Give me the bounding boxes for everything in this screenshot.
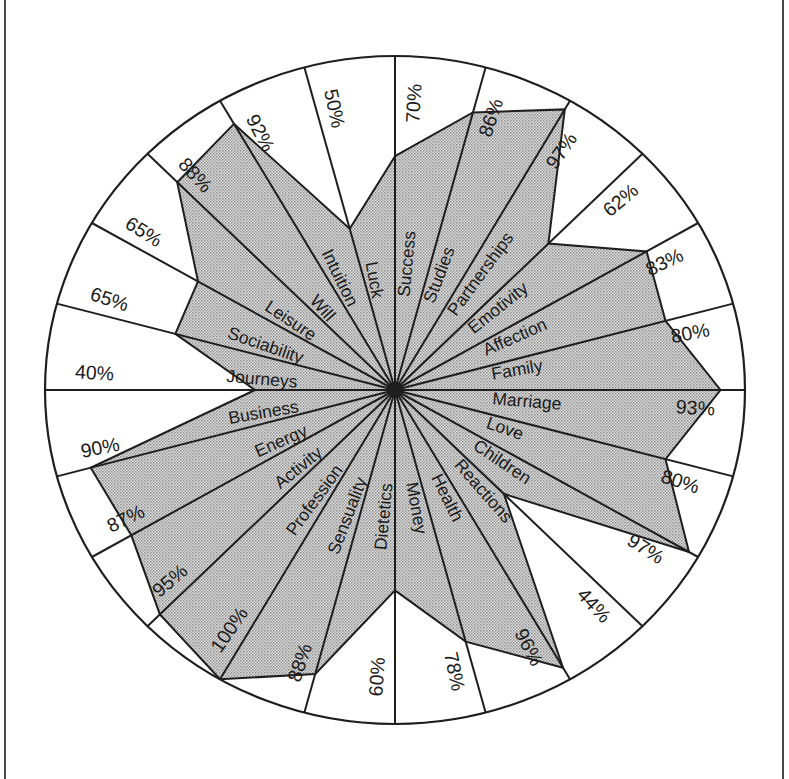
value-label-luck: 50% [320, 87, 350, 130]
value-label-sociability: 65% [88, 282, 132, 315]
value-label-affection: 83% [642, 243, 687, 280]
value-label-money: 78% [440, 650, 470, 693]
value-label-emotivity: 62% [598, 179, 642, 221]
value-label-journeys: 40% [74, 360, 114, 384]
value-label-reactions: 44% [573, 583, 616, 627]
center-dot [387, 382, 403, 398]
value-label-success: 70% [401, 83, 425, 123]
value-label-marriage: 93% [675, 395, 715, 419]
value-label-family: 80% [669, 318, 712, 347]
value-label-leisure: 65% [122, 212, 167, 251]
radar-chart: SuccessStudiesPartnershipsEmotivityAffec… [0, 0, 789, 779]
value-label-dietetics: 60% [364, 657, 388, 697]
